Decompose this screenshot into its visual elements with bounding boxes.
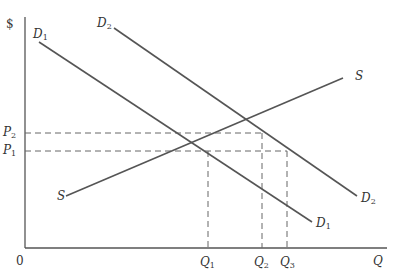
y-axis-label: $ (6, 18, 14, 30)
supply-demand-diagram: $ Q 0 D1 D2 D1 D2 S S P2 P1 Q1 Q2 Q3 (0, 0, 395, 277)
s-label-bottom: S (57, 190, 65, 202)
d1-label-top: D1 (33, 28, 48, 42)
q2-name: Q (254, 255, 264, 269)
d1-curve (39, 42, 312, 222)
d2-name-2: D (361, 191, 371, 205)
q1-label: Q1 (200, 256, 215, 270)
p2-label: P2 (3, 126, 16, 140)
d2-sub: 2 (107, 22, 112, 31)
p1-name: P (3, 143, 11, 157)
q3-sub: 3 (290, 261, 295, 270)
d2-name: D (97, 16, 107, 30)
s-curve (66, 78, 343, 196)
p2-name: P (3, 125, 11, 139)
q3-label: Q3 (280, 256, 295, 270)
q1-sub: 1 (210, 261, 215, 270)
s-label-top: S (355, 70, 363, 82)
diagram-svg (0, 0, 395, 277)
q2-sub: 2 (264, 261, 269, 270)
q2-label: Q2 (254, 256, 269, 270)
d1-sub-2: 1 (326, 222, 331, 231)
origin-label: 0 (16, 255, 24, 267)
x-axis-label: Q (373, 255, 383, 267)
d2-label-top: D2 (97, 17, 112, 31)
d1-sub: 1 (43, 33, 48, 42)
p2-sub: 2 (11, 131, 16, 140)
d2-sub-2: 2 (371, 197, 376, 206)
p1-label: P1 (3, 144, 16, 158)
d1-name-2: D (316, 216, 326, 230)
d2-label-bottom: D2 (361, 192, 376, 206)
d1-label-bottom: D1 (316, 217, 331, 231)
q1-name: Q (200, 255, 210, 269)
q3-name: Q (280, 255, 290, 269)
p1-sub: 1 (11, 149, 16, 158)
d1-name: D (33, 27, 43, 41)
